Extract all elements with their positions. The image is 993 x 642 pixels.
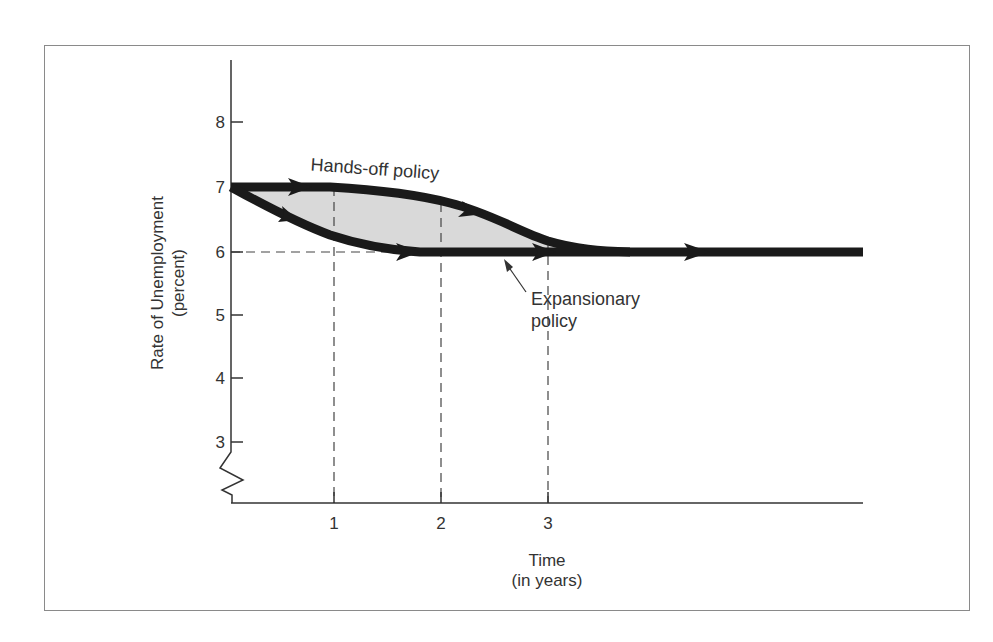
annotation-pointer — [504, 259, 526, 292]
axes — [220, 60, 863, 503]
y-tick-label: 3 — [216, 433, 225, 452]
hands-off-policy-label: Hands-off policy — [310, 154, 440, 183]
y-axis-title: Rate of Unemployment (percent) — [148, 196, 188, 370]
expansionary-policy-label: Expansionary policy — [531, 289, 640, 331]
expansionary-label-line2: policy — [531, 311, 577, 331]
y-tick-label: 6 — [216, 243, 225, 262]
x-axis-title-line1: Time — [528, 551, 565, 570]
expansionary-label-line1: Expansionary — [531, 289, 640, 309]
y-tick-label: 4 — [216, 369, 225, 388]
x-tick-labels: 1 2 3 — [329, 514, 552, 533]
x-tick-label: 1 — [329, 514, 338, 533]
y-tick-label: 7 — [216, 178, 225, 197]
unemployment-chart: 8 7 6 5 4 3 1 2 3 Time (in years) Rate o… — [0, 0, 993, 642]
y-tick-labels: 8 7 6 5 4 3 — [216, 113, 225, 452]
y-tick-label: 8 — [216, 113, 225, 132]
pointer-arrow-icon — [504, 259, 513, 272]
x-axis-title: Time (in years) — [512, 551, 583, 590]
x-tick-label: 2 — [436, 514, 445, 533]
y-axis-title-line2: (percent) — [169, 249, 188, 317]
y-tick-label: 5 — [216, 306, 225, 325]
y-axis-title-line1: Rate of Unemployment — [148, 196, 167, 370]
x-tick-label: 3 — [543, 514, 552, 533]
x-axis-title-line2: (in years) — [512, 571, 583, 590]
